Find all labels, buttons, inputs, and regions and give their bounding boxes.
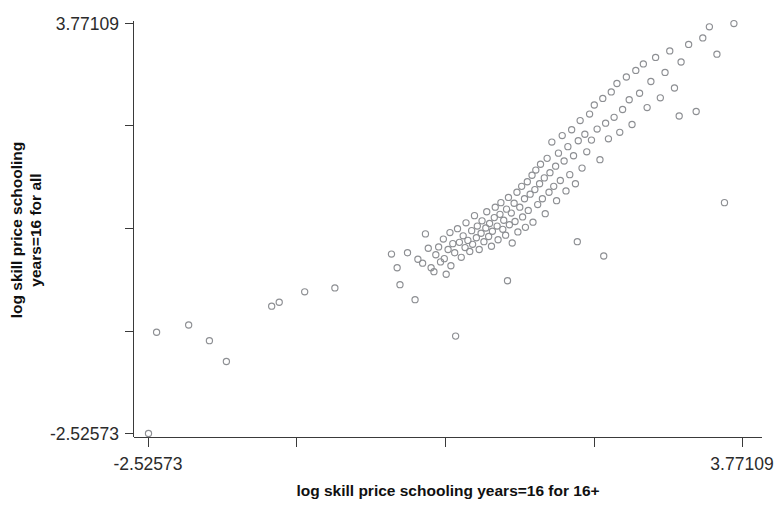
y-tick-label-max: 3.77109 (56, 14, 119, 34)
plot-canvas: 3.77109 -2.52573 -2.52573 3.77109 log sk… (0, 0, 777, 505)
x-axis-title: log skill price schooling years=16 for 1… (296, 482, 599, 499)
x-tick-label-min: -2.52573 (113, 454, 182, 474)
y-axis-title-line2: years=16 for all (27, 173, 44, 286)
x-tick-label-max: 3.77109 (710, 454, 773, 474)
y-tick-label-min: -2.52573 (50, 424, 119, 444)
scatter-plot-figure: 3.77109 -2.52573 -2.52573 3.77109 log sk… (0, 0, 777, 505)
y-axis-title-line1: log skill price schooling (8, 142, 25, 319)
